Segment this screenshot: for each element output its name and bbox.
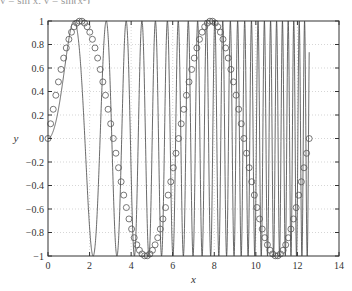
y-tick-label: −0.4 bbox=[26, 180, 44, 191]
x-tick-label: 12 bbox=[292, 260, 302, 271]
y-tick-label: 0.8 bbox=[32, 39, 45, 50]
x-tick-label: 0 bbox=[46, 260, 51, 271]
y-tick-label: −0.8 bbox=[26, 227, 44, 238]
y-tick-label: 1 bbox=[39, 16, 44, 27]
x-tick-label: 14 bbox=[334, 260, 344, 271]
y-axis-label: y bbox=[13, 132, 19, 144]
y-tick-label: −1 bbox=[33, 251, 44, 262]
x-tick-label: 2 bbox=[87, 260, 92, 271]
y-tick-label: −0.2 bbox=[26, 157, 44, 168]
x-tick-label: 6 bbox=[170, 260, 175, 271]
chart: 02468101214 −1−0.8−0.6−0.4−0.200.20.40.6… bbox=[0, 0, 352, 291]
x-axis-label: x bbox=[190, 273, 196, 285]
y-tick-label: 0 bbox=[39, 133, 44, 144]
y-tick-label: 0.6 bbox=[32, 63, 45, 74]
y-tick-label: 0.2 bbox=[32, 110, 45, 121]
x-tick-label: 4 bbox=[129, 260, 134, 271]
x-tick-label: 10 bbox=[251, 260, 261, 271]
y-tick-label: −0.6 bbox=[26, 204, 44, 215]
x-tick-label: 8 bbox=[212, 260, 217, 271]
y-tick-label: 0.4 bbox=[32, 86, 45, 97]
